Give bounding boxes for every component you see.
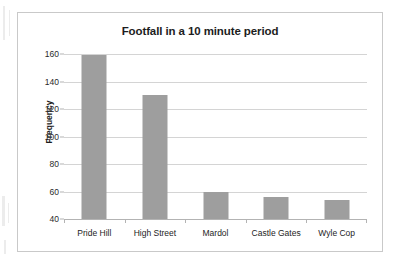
bar (264, 197, 289, 219)
bar (142, 95, 167, 219)
y-tick-mark (60, 54, 64, 55)
plot-area: 406080100120140160 Pride HillHigh Street… (64, 54, 367, 219)
x-tick-mark (64, 219, 65, 223)
x-tick-mark (185, 219, 186, 223)
x-tick-mark (125, 219, 126, 223)
x-category-label: Castle Gates (252, 228, 301, 238)
x-category-label: Pride Hill (77, 228, 111, 238)
y-tick-mark (60, 136, 64, 137)
y-tick-label: 160 (45, 49, 59, 59)
y-tick-label: 60 (50, 187, 59, 197)
y-tick-label: 100 (45, 132, 59, 142)
chart-title: Footfall in a 10 minute period (18, 25, 382, 37)
y-tick-label: 40 (50, 214, 59, 224)
bar (324, 200, 349, 219)
y-tick-label: 140 (45, 77, 59, 87)
x-category-label: Wyle Cop (318, 228, 355, 238)
scan-artifacts (0, 0, 16, 267)
bar (203, 192, 228, 220)
x-tick-mark (246, 219, 247, 223)
y-axis-title: Frequency (44, 87, 54, 157)
x-tick-mark (306, 219, 307, 223)
y-tick-label: 120 (45, 104, 59, 114)
gridline (64, 164, 367, 165)
scan-artifact-mark (3, 6, 5, 40)
gridline (64, 219, 367, 220)
y-tick-mark (60, 81, 64, 82)
x-category-label: Mardol (203, 228, 229, 238)
bar-chart: Footfall in a 10 minute period Frequency… (17, 12, 383, 252)
x-category-label: High Street (134, 228, 177, 238)
y-tick-mark (60, 109, 64, 110)
scan-artifact-mark (8, 203, 9, 223)
x-tick-mark (366, 219, 367, 223)
y-tick-mark (60, 191, 64, 192)
scan-artifact-mark (2, 196, 5, 226)
gridline (64, 82, 367, 83)
y-tick-label: 80 (50, 159, 59, 169)
gridline (64, 54, 367, 55)
scan-artifact-mark (9, 10, 10, 36)
gridline (64, 109, 367, 110)
bar (82, 55, 107, 219)
scan-artifact-mark (4, 240, 6, 254)
gridline (64, 137, 367, 138)
y-tick-mark (60, 164, 64, 165)
